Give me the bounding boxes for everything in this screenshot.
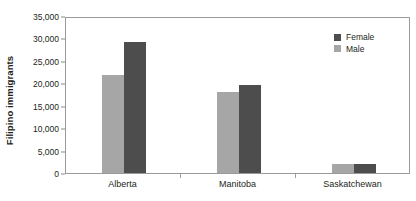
legend-item-female[interactable]: Female: [334, 33, 374, 42]
y-axis-tick-label: 35,000: [33, 13, 59, 22]
category-label-saskatchewan: Saskatchewan: [323, 180, 382, 189]
y-axis-tick-label: 5,000: [38, 147, 59, 156]
bar-group: [217, 18, 261, 173]
y-axis-tick-label: 30,000: [33, 35, 59, 44]
legend-swatch-icon: [334, 45, 341, 52]
bar-alberta-female: [124, 42, 146, 173]
legend-label: Female: [346, 33, 374, 42]
y-axis-tick-label: 0: [54, 170, 59, 179]
bar-chart: Filipino immigrants 05,00010,00015,00020…: [0, 0, 416, 201]
bar-saskatchewan-male: [332, 164, 354, 173]
bar-group: [102, 18, 146, 173]
bar-manitoba-female: [239, 85, 261, 173]
chart-legend: FemaleMale: [334, 33, 374, 53]
category-axis-tick: [295, 174, 296, 178]
legend-item-male[interactable]: Male: [334, 45, 374, 54]
category-label-alberta: Alberta: [108, 180, 137, 189]
category-label-manitoba: Manitoba: [219, 180, 256, 189]
bar-alberta-male: [102, 75, 124, 173]
y-axis-tick-label: 20,000: [33, 80, 59, 89]
y-axis-tick-label: 15,000: [33, 102, 59, 111]
bar-manitoba-male: [217, 92, 239, 173]
y-axis-tick-label: 10,000: [33, 125, 59, 134]
y-axis-tick-labels: 05,00010,00015,00020,00025,00030,00035,0…: [14, 17, 59, 174]
y-axis-tick-label: 25,000: [33, 58, 59, 67]
y-axis-title-text: Filipino immigrants: [4, 56, 15, 146]
bar-saskatchewan-female: [354, 164, 376, 173]
legend-swatch-icon: [334, 34, 341, 41]
legend-label: Male: [346, 45, 364, 54]
category-axis-tick: [180, 174, 181, 178]
